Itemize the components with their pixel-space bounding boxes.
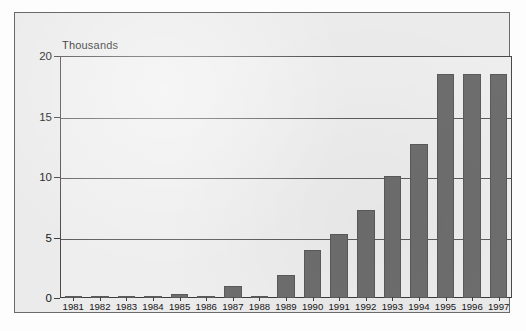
x-tick-label-1984: 1984: [140, 301, 167, 312]
x-tick-label-1983: 1983: [113, 301, 140, 312]
x-tick-label-1987: 1987: [220, 301, 247, 312]
y-tick-label-15: 15: [26, 111, 52, 123]
chart-frame: Thousands 05101520 198119821983198419851…: [14, 12, 510, 313]
y-tick-label-10: 10: [26, 171, 52, 183]
x-tick-label-1988: 1988: [246, 301, 273, 312]
x-tick-mark-1991: [339, 297, 340, 301]
x-tick-mark-1985: [180, 297, 181, 301]
x-tick-label-1985: 1985: [166, 301, 193, 312]
x-tick-label-1981: 1981: [60, 301, 87, 312]
x-tick-mark-1997: [499, 297, 500, 301]
y-tick-mark-0: [54, 298, 60, 299]
x-tick-label-1995: 1995: [432, 301, 459, 312]
x-tick-label-1993: 1993: [379, 301, 406, 312]
y-tick-label-5: 5: [26, 232, 52, 244]
x-tick-mark-1986: [206, 297, 207, 301]
x-tick-mark-1994: [419, 297, 420, 301]
x-tick-label-1991: 1991: [326, 301, 353, 312]
x-tick-mark-1987: [233, 297, 234, 301]
x-tick-mark-1984: [153, 297, 154, 301]
x-tick-mark-1995: [446, 297, 447, 301]
x-tick-mark-1996: [472, 297, 473, 301]
y-tick-mark-20: [54, 56, 60, 57]
y-tick-mark-10: [54, 177, 60, 178]
x-tick-label-1992: 1992: [352, 301, 379, 312]
y-tick-label-20: 20: [26, 50, 52, 62]
x-tick-mark-1993: [392, 297, 393, 301]
y-tick-mark-5: [54, 238, 60, 239]
x-tick-mark-1990: [313, 297, 314, 301]
x-tick-label-1990: 1990: [299, 301, 326, 312]
x-tick-label-1997: 1997: [485, 301, 512, 312]
x-axis: 1981198219831984198519861987198819891990…: [60, 301, 512, 317]
y-axis: 05101520: [15, 13, 526, 331]
x-tick-mark-1983: [126, 297, 127, 301]
x-tick-label-1994: 1994: [406, 301, 433, 312]
y-tick-label-0: 0: [26, 292, 52, 304]
x-tick-label-1996: 1996: [459, 301, 486, 312]
x-tick-mark-1982: [100, 297, 101, 301]
x-tick-mark-1988: [259, 297, 260, 301]
x-tick-mark-1981: [73, 297, 74, 301]
x-tick-label-1989: 1989: [273, 301, 300, 312]
x-tick-mark-1992: [366, 297, 367, 301]
x-tick-label-1986: 1986: [193, 301, 220, 312]
x-tick-mark-1989: [286, 297, 287, 301]
x-tick-label-1982: 1982: [87, 301, 114, 312]
chart-page: Thousands 05101520 198119821983198419851…: [0, 0, 526, 331]
y-tick-mark-15: [54, 117, 60, 118]
